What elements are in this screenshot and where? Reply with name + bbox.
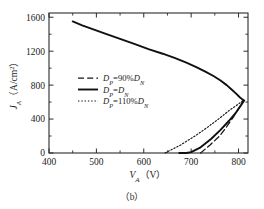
figure-container: 400500600700800 040080012001600 VA（V） JA… xyxy=(0,0,264,209)
legend-label: DP=110%DN xyxy=(102,96,149,109)
x-axis-title: VA（V） xyxy=(130,169,167,184)
svg-text:VA（V）: VA（V） xyxy=(130,169,167,184)
chart-legend: DP=90%DNDP=DNDP=110%DN xyxy=(78,73,149,109)
x-axis-tick-labels: 400500600700800 xyxy=(42,157,246,167)
x-tick-label: 800 xyxy=(231,157,246,167)
x-tick-label: 500 xyxy=(89,157,104,167)
data-series-group xyxy=(73,21,245,153)
y-tick-label: 800 xyxy=(31,81,46,91)
y-tick-label: 1600 xyxy=(26,13,45,23)
chart-plot: 400500600700800 040080012001600 VA（V） JA… xyxy=(0,0,264,209)
y-axis-title: JA（A/cm2） xyxy=(8,57,24,110)
x-tick-label: 400 xyxy=(42,157,57,167)
series-curve-solid xyxy=(73,21,245,153)
y-tick-label: 1200 xyxy=(26,47,45,57)
y-tick-label: 400 xyxy=(31,114,46,124)
figure-caption: （b） xyxy=(0,189,264,203)
series-curve-dashed xyxy=(201,100,244,153)
y-axis-tick-labels: 040080012001600 xyxy=(26,13,45,159)
svg-text:JA（A/cm2）: JA（A/cm2） xyxy=(8,57,24,110)
x-tick-label: 600 xyxy=(137,157,152,167)
y-tick-label: 0 xyxy=(40,148,45,158)
x-tick-label: 700 xyxy=(184,157,199,167)
